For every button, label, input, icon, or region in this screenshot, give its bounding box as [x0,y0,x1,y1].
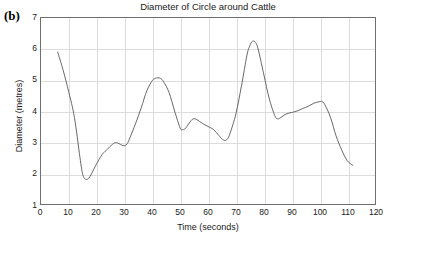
panel-label: (b) [4,8,20,24]
series-path [58,41,353,180]
x-tick-label: 30 [112,207,136,217]
y-tick-label: 3 [23,138,37,147]
figure-panel: (b) Diameter of Circle around Cattle Dia… [0,0,425,257]
x-tick-label: 120 [364,207,388,217]
x-tick-label: 0 [28,207,52,217]
x-axis-tick-labels: 0102030405060708090100110120 [40,207,376,219]
y-tick-label: 2 [23,169,37,178]
x-tick-label: 10 [56,207,80,217]
x-tick-label: 110 [336,207,360,217]
x-tick-label: 100 [308,207,332,217]
data-line-series [41,18,375,204]
y-axis-tick-labels: 1234567 [20,17,37,205]
y-tick-label: 4 [23,107,37,116]
x-tick-label: 20 [84,207,108,217]
x-tick-label: 60 [196,207,220,217]
x-tick-label: 70 [224,207,248,217]
x-tick-label: 90 [280,207,304,217]
plot-area [40,17,376,205]
x-tick-label: 40 [140,207,164,217]
y-tick-label: 5 [23,75,37,84]
x-tick-label: 80 [252,207,276,217]
x-axis-title: Time (seconds) [40,222,376,232]
y-tick-label: 7 [23,13,37,22]
y-tick-label: 6 [23,44,37,53]
chart-title: Diameter of Circle around Cattle [40,1,376,12]
x-tick-label: 50 [168,207,192,217]
